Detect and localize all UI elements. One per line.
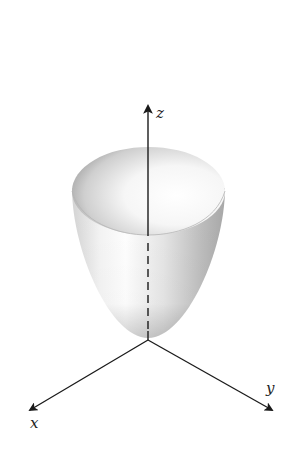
- z-axis-label: z: [155, 104, 164, 122]
- paraboloid-diagram: z x y: [0, 0, 307, 454]
- y-axis: [148, 340, 272, 410]
- x-axis-label: x: [30, 414, 39, 432]
- paraboloid-surface: [60, 147, 240, 345]
- y-axis-label: y: [265, 379, 275, 397]
- x-axis: [30, 340, 148, 410]
